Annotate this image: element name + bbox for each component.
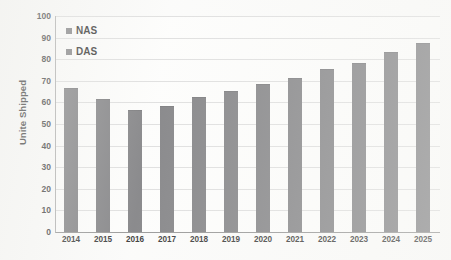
- x-axis-tick-label: 2021: [279, 236, 311, 244]
- y-axis-tick-label: 20: [23, 185, 51, 194]
- chart-legend: NAS DAS: [66, 22, 97, 64]
- y-axis-tick-label: 30: [23, 163, 51, 172]
- bar-slot: [215, 16, 247, 232]
- bar-slot: [183, 16, 215, 232]
- y-axis-tick-label: 100: [23, 12, 51, 21]
- x-axis-tick-label: 2017: [151, 236, 183, 244]
- legend-item-das[interactable]: DAS: [66, 43, 97, 60]
- x-axis-tick-label: 2016: [119, 236, 151, 244]
- x-axis-tick-label: 2022: [311, 236, 343, 244]
- bar[interactable]: [384, 52, 398, 232]
- x-axis-tick-label: 2023: [343, 236, 375, 244]
- bar-chart: 0102030405060708090100 Unite Shipped 201…: [0, 0, 451, 260]
- x-axis-tick-label: 2018: [183, 236, 215, 244]
- y-axis-tick-label: 10: [23, 206, 51, 215]
- y-axis-title: Unite Shipped: [17, 65, 28, 161]
- x-axis-tick-labels: 2014201520162017201820192020202120222023…: [55, 236, 439, 250]
- bar-slot: [311, 16, 343, 232]
- bar[interactable]: [64, 88, 78, 232]
- bar-slot: [407, 16, 439, 232]
- bar[interactable]: [160, 106, 174, 232]
- bar[interactable]: [224, 91, 238, 232]
- legend-label-nas: NAS: [76, 25, 97, 36]
- x-axis-tick-label: 2015: [87, 236, 119, 244]
- bar[interactable]: [352, 63, 366, 232]
- legend-item-nas[interactable]: NAS: [66, 22, 97, 39]
- bar-slot: [375, 16, 407, 232]
- bar-slot: [151, 16, 183, 232]
- legend-label-das: DAS: [76, 46, 97, 57]
- x-axis-tick-label: 2014: [55, 236, 87, 244]
- bar[interactable]: [416, 43, 430, 232]
- y-axis-tick-label: 0: [23, 228, 51, 237]
- bar[interactable]: [128, 110, 142, 232]
- y-axis-tick-label: 80: [23, 55, 51, 64]
- bar-slot: [343, 16, 375, 232]
- x-axis-tick-label: 2019: [215, 236, 247, 244]
- bar[interactable]: [320, 69, 334, 232]
- bar[interactable]: [256, 84, 270, 232]
- legend-swatch-icon: [66, 49, 72, 55]
- x-axis-tick-label: 2020: [247, 236, 279, 244]
- bar[interactable]: [96, 99, 110, 232]
- bar[interactable]: [288, 78, 302, 232]
- bar-slot: [119, 16, 151, 232]
- x-axis-tick-label: 2025: [407, 236, 439, 244]
- bar-slot: [279, 16, 311, 232]
- x-axis-tick-label: 2024: [375, 236, 407, 244]
- bar-slot: [247, 16, 279, 232]
- bar[interactable]: [192, 97, 206, 232]
- legend-swatch-icon: [66, 28, 72, 34]
- y-axis-tick-label: 90: [23, 34, 51, 43]
- bar-series: [55, 16, 439, 232]
